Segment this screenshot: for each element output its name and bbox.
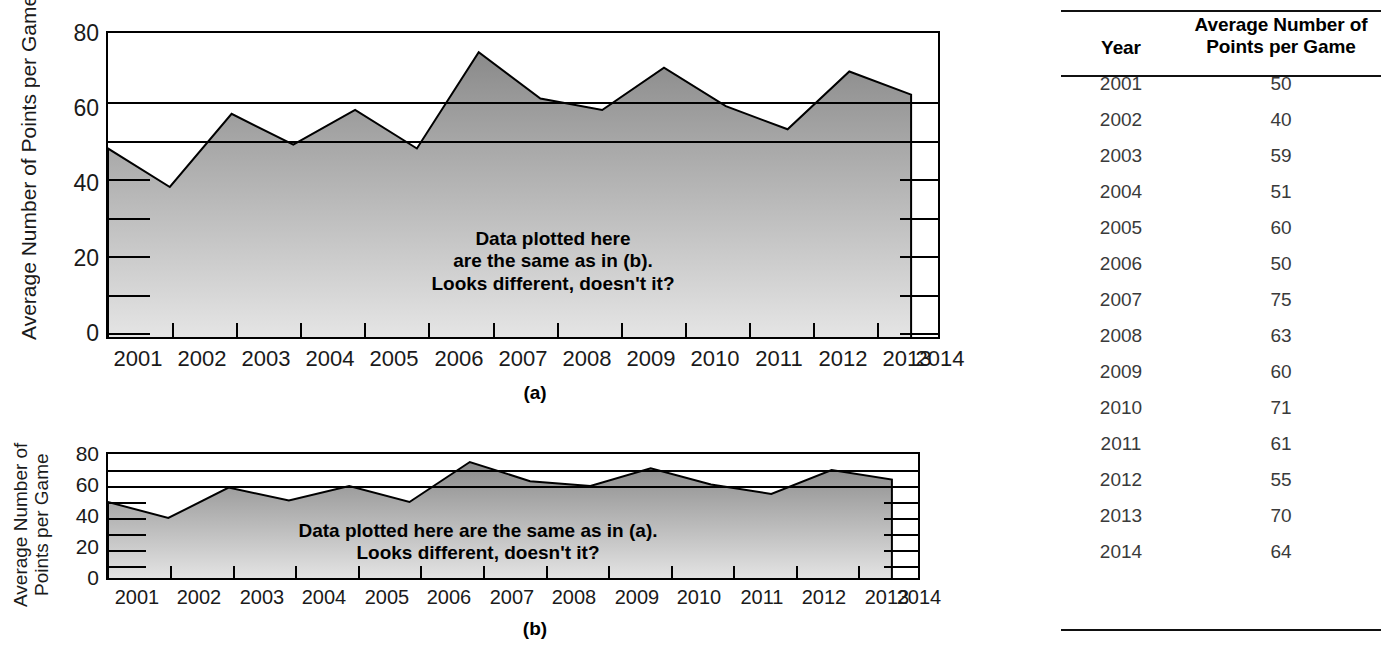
table-header: Year Average Number of Points per Game [1061,12,1381,66]
chart-b-ytick-mark-40 [108,518,146,520]
chart-a-ytick-80: 80 [44,20,99,47]
chart-a-xtick-mark [685,323,687,337]
chart-a-right-tick-60 [900,141,938,143]
table-row: 200775 [1061,282,1381,318]
table-cell-year: 2004 [1061,174,1181,210]
chart-a-ytick-20: 20 [44,245,99,272]
table-cell-year: 2009 [1061,354,1181,390]
table-cell-points: 51 [1181,174,1381,210]
table-cell-points: 50 [1181,66,1381,102]
chart-b-right-tick-10 [884,566,918,568]
chart-b-right-tick-70 [884,470,918,472]
chart-b-ytick-80: 80 [44,442,99,466]
chart-a-ytick-40: 40 [44,170,99,197]
table-cell-year: 2010 [1061,390,1181,426]
chart-a-xtick-mark [300,323,302,337]
chart-a-xtick-mark [236,323,238,337]
chart-a-xtick-2010: 2010 [683,346,747,372]
table-cell-points: 61 [1181,426,1381,462]
chart-a-xtick-mark [428,323,430,337]
chart-a-xtick-2003: 2003 [234,346,298,372]
chart-b-annotation: Data plotted here are the same as in (a)… [218,520,738,565]
chart-a-annotation: Data plotted hereare the same as in (b).… [408,228,698,295]
chart-a-xtick-2006: 2006 [427,346,491,372]
chart-a-right-tick-40 [900,218,938,220]
chart-a-gridline-60 [108,141,938,143]
chart-b-ytick-0: 0 [44,566,99,590]
chart-a-xtick-2014: 2014 [908,346,972,372]
chart-b-xtick-2003: 2003 [231,586,293,609]
chart-b-ytick-mark-20 [108,550,146,552]
table-row: 200863 [1061,318,1381,354]
chart-a-xtick-2011: 2011 [747,346,811,372]
chart-b-xtick-mark [671,566,673,578]
table-cell-year: 2001 [1061,66,1181,102]
table-row: 201071 [1061,390,1381,426]
chart-b: Average Number ofPoints per Game 80 60 4… [0,420,1045,659]
chart-a-xtick-mark [621,323,623,337]
table-row: 200240 [1061,102,1381,138]
chart-b-xtick-2011: 2011 [731,586,793,609]
chart-a-ytick-mark-30 [108,256,150,258]
chart-b-ytick-mark-50 [108,502,146,504]
table-cell-points: 50 [1181,246,1381,282]
table-bottom-rule [1061,629,1381,631]
chart-b-plot-area: Data plotted here are the same as in (a)… [106,452,920,580]
table-cell-points: 64 [1181,534,1381,570]
chart-b-ytick-mark-10 [108,566,146,568]
chart-b-xtick-2008: 2008 [543,586,605,609]
table-header-points-line2: Points per Game [1206,36,1356,57]
chart-b-right-tick-30 [884,534,918,536]
table-row: 200650 [1061,246,1381,282]
table-cell-year: 2013 [1061,498,1181,534]
chart-a-xtick-mark [813,323,815,337]
table-cell-points: 71 [1181,390,1381,426]
chart-b-xtick-mark [733,566,735,578]
chart-a-xtick-2008: 2008 [555,346,619,372]
chart-a-right-tick-20 [900,295,938,297]
table-cell-points: 60 [1181,354,1381,390]
chart-b-right-tick-60 [884,486,918,488]
chart-b-xtick-mark [295,566,297,578]
table-body: 2001502002402003592004512005602006502007… [1061,66,1381,570]
chart-b-xtick-mark [233,566,235,578]
chart-b-xtick-mark [170,566,172,578]
chart-b-xtick-2006: 2006 [418,586,480,609]
chart-a-xtick-mark [172,323,174,337]
chart-b-right-tick-20 [884,550,918,552]
chart-b-xtick-mark [796,566,798,578]
chart-b-caption: (b) [485,618,585,640]
chart-a-xtick-2005: 2005 [362,346,426,372]
chart-b-xtick-2007: 2007 [481,586,543,609]
chart-a-right-tick-10 [900,333,938,335]
table-cell-year: 2014 [1061,534,1181,570]
chart-a-xtick-mark [364,323,366,337]
chart-a-xtick-2002: 2002 [170,346,234,372]
chart-a-ytick-60: 60 [44,95,99,122]
table-row: 201370 [1061,498,1381,534]
chart-b-xtick-mark [546,566,548,578]
points-per-game-table: Year Average Number of Points per Game 2… [1061,12,1381,570]
chart-b-gridline-70 [108,470,918,472]
data-table-region: Year Average Number of Points per Game 2… [1055,0,1391,659]
chart-b-gridline-60 [108,486,918,488]
chart-b-xtick-2004: 2004 [293,586,355,609]
table-header-row: Year Average Number of Points per Game [1061,12,1381,66]
table-cell-year: 2008 [1061,318,1181,354]
chart-a-xtick-mark [493,323,495,337]
chart-a-gridline-70 [108,102,938,104]
table-row: 200451 [1061,174,1381,210]
chart-b-xtick-mark [358,566,360,578]
chart-b-xtick-2009: 2009 [606,586,668,609]
table-cell-points: 60 [1181,210,1381,246]
table-row: 201161 [1061,426,1381,462]
chart-b-xtick-2010: 2010 [668,586,730,609]
chart-a-xtick-mark [749,323,751,337]
chart-b-ytick-40: 40 [44,504,99,528]
chart-b-ytick-20: 20 [44,535,99,559]
chart-b-xtick-2001: 2001 [106,586,168,609]
table-row: 200560 [1061,210,1381,246]
chart-b-xtick-2012: 2012 [793,586,855,609]
table-cell-points: 70 [1181,498,1381,534]
chart-a-ytick-mark-40 [108,218,150,220]
